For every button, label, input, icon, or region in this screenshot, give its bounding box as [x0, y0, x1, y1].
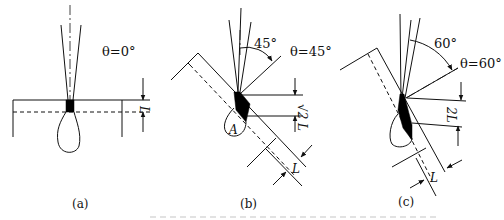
- point-label-A: A: [228, 123, 238, 137]
- beam-edge-left: [400, 14, 401, 98]
- plate-left-edge: [340, 48, 377, 70]
- dim-ext-top: [407, 98, 466, 101]
- keyhole-bulb: [57, 112, 79, 152]
- thickness-ext-line: [247, 138, 276, 167]
- thickness-label-L: L: [291, 162, 300, 176]
- caption-b: (b): [240, 197, 257, 211]
- thickness-arrow-bottom: [273, 172, 286, 185]
- angle-label-a: θ=0°: [102, 44, 136, 59]
- plate-left-edge: [171, 53, 198, 80]
- arc-label-60: 60°: [434, 36, 457, 51]
- plate-depth-line: [190, 65, 295, 176]
- beam-center-line: [238, 8, 241, 92]
- dimension-label-L: L: [137, 105, 151, 114]
- caption-a: (a): [72, 197, 89, 211]
- dimension-label-sqrt2L: √2 L: [295, 104, 309, 131]
- plate-top-surface: [198, 53, 306, 167]
- beam-edge-right: [73, 25, 81, 100]
- panel-a: L θ=0° (a): [13, 5, 151, 211]
- beam-center-line: [402, 20, 411, 98]
- beam-edge-right: [405, 18, 420, 98]
- panel-c: 60° θ=60° 2L L (c): [340, 14, 502, 209]
- thickness-arrow-top: [301, 145, 312, 157]
- melt-zone: [234, 92, 250, 122]
- melt-zone: [66, 100, 74, 112]
- arc-label-45: 45°: [254, 36, 277, 51]
- dimension-label-2L: 2L: [444, 106, 458, 123]
- thickness-ext-line: [392, 148, 426, 167]
- thickness-arrow-top: [447, 160, 462, 168]
- surface-normal: [240, 56, 281, 94]
- panel-b: 45° θ=45° A √2 L L (b): [171, 8, 332, 211]
- melt-zone: [398, 94, 412, 140]
- thickness-label-L: L: [429, 171, 438, 185]
- beam-edge-right: [240, 22, 251, 92]
- angle-label-c: θ=60°: [460, 56, 502, 71]
- beam-edge-left: [61, 25, 68, 100]
- beam-edge-left: [229, 20, 238, 92]
- caption-c: (c): [398, 195, 414, 209]
- angle-label-b: θ=45°: [290, 44, 332, 59]
- weld-incidence-angle-diagram: L θ=0° (a) 45° θ=45° A √2 L L: [0, 0, 504, 220]
- thickness-arrow-bottom: [410, 180, 424, 188]
- plate-corner-tick: [188, 63, 190, 65]
